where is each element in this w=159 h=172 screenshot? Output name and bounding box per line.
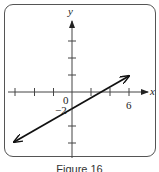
y-tick-label-neg2: −2 — [55, 105, 67, 116]
coordinate-plane — [0, 0, 159, 172]
x-tick-label-6: 6 — [126, 100, 132, 111]
x-axis — [8, 88, 148, 96]
x-axis-label: x — [150, 86, 155, 97]
y-axis — [68, 21, 76, 158]
figure-caption: Figure 16 — [0, 163, 159, 172]
y-axis-label: y — [68, 6, 73, 17]
